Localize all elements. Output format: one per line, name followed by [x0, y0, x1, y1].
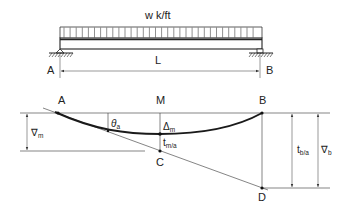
distributed-load [60, 27, 262, 38]
t-m-a-label: tm/a [163, 137, 177, 149]
load-label: w k/ft [144, 9, 171, 21]
elastic-curve [55, 112, 262, 134]
label-m: M [156, 94, 165, 106]
label-c: C [156, 156, 164, 168]
label-b: B [259, 94, 266, 106]
support-a-label: A [47, 64, 55, 76]
left-support-pin [49, 49, 73, 57]
theta-a-label: θa [111, 118, 120, 130]
deflection-diagram: A M B C D θa Δm tm/a tb/a ∇m ∇b [20, 94, 332, 203]
loaded-beam-diagram: w k/ft L A [47, 9, 273, 78]
support-b-label: B [266, 64, 273, 76]
right-support-roller [249, 49, 273, 57]
label-d: D [258, 191, 266, 203]
point-b [260, 111, 263, 114]
point-c [158, 149, 161, 152]
beam-deflection-figure: w k/ft L A [0, 0, 349, 211]
span-label: L [155, 54, 161, 66]
nabla-b-label: ∇b [320, 144, 332, 156]
point-d [260, 186, 263, 189]
nabla-m-label: ∇m [30, 127, 43, 139]
point-a [56, 111, 59, 114]
label-a: A [58, 94, 66, 106]
delta-m-label: Δm [163, 121, 175, 133]
t-b-a-label: tb/a [297, 144, 309, 156]
point-m-deflected [158, 132, 162, 136]
